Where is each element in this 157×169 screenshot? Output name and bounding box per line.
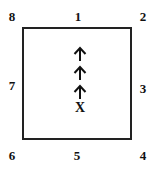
arrow-up-icon xyxy=(73,65,87,81)
position-label-4: 4 xyxy=(137,149,149,162)
position-label-5: 5 xyxy=(71,149,83,162)
arrow-up-icon xyxy=(73,84,87,100)
position-label-8: 8 xyxy=(6,10,18,23)
position-label-2: 2 xyxy=(137,10,149,23)
arrow-up-icon xyxy=(73,46,87,62)
position-label-7: 7 xyxy=(6,79,18,92)
position-label-6: 6 xyxy=(6,149,18,162)
position-label-3: 3 xyxy=(137,82,149,95)
position-label-1: 1 xyxy=(72,10,84,23)
start-marker: X xyxy=(72,101,88,115)
